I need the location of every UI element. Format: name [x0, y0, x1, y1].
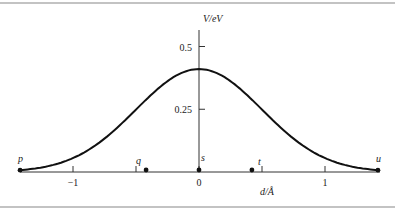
x-axis-label: d/Å [260, 186, 275, 197]
y-ticks: 0.250.5 [175, 42, 206, 116]
chart: −101 0.250.5 pqstu V/eV d/Å [0, 0, 395, 212]
x-tick-label: 0 [197, 177, 202, 188]
point-label-p: p [17, 153, 23, 164]
y-tick-label: 0.25 [175, 104, 193, 115]
y-axis-label: V/eV [203, 13, 224, 24]
point-label-s: s [201, 152, 205, 163]
point-label-t: t [258, 156, 261, 167]
point-label-q: q [136, 155, 141, 166]
point-t [250, 168, 255, 173]
point-label-u: u [376, 153, 381, 164]
point-u [376, 168, 381, 173]
point-p [18, 168, 23, 173]
chart-svg: −101 0.250.5 pqstu V/eV d/Å [0, 0, 395, 212]
x-tick-label: −1 [68, 177, 79, 188]
y-tick-label: 0.5 [180, 42, 193, 53]
x-tick-label: 1 [323, 177, 328, 188]
point-q [144, 168, 149, 173]
point-s [197, 168, 202, 173]
